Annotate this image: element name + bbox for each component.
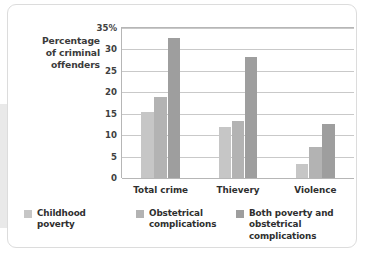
bar xyxy=(296,164,309,178)
y-axis-tick-label: 0 xyxy=(111,173,117,183)
bar xyxy=(309,147,322,178)
legend-swatch-icon xyxy=(136,210,144,218)
legend-label: Childhoodpoverty xyxy=(37,208,86,231)
y-axis-title-line: offenders xyxy=(24,59,100,71)
bar xyxy=(154,97,167,178)
legend-label-line: Childhood xyxy=(37,208,86,219)
x-axis-category-label: Total crime xyxy=(133,185,188,195)
y-axis-title: Percentageof criminaloffenders xyxy=(24,35,100,72)
y-axis-tick-label: 35% xyxy=(96,23,117,33)
axis-baseline xyxy=(122,178,354,179)
y-axis-tick-label: 20 xyxy=(105,87,117,97)
y-axis-tick-label: 10 xyxy=(105,130,117,140)
legend-label-line: complications xyxy=(149,219,216,230)
legend-label-line: Both poverty and xyxy=(249,208,350,219)
plot-area: 05101520253035% Total crimeThieveryViole… xyxy=(121,27,354,178)
bar xyxy=(322,124,335,178)
legend-item[interactable]: Both poverty andobstetrical complication… xyxy=(236,208,350,242)
legend-label-line: obstetrical complications xyxy=(249,219,350,242)
y-axis-tick-label: 30 xyxy=(105,44,117,54)
x-axis-category-label: Violence xyxy=(294,185,336,195)
y-axis-tick-label: 5 xyxy=(111,152,117,162)
bar xyxy=(245,57,258,178)
legend-swatch-icon xyxy=(236,210,244,218)
legend-item[interactable]: Childhoodpoverty xyxy=(24,208,136,231)
legend-label: Obstetricalcomplications xyxy=(149,208,216,231)
y-axis-tick-label: 25 xyxy=(105,66,117,76)
legend-label-line: poverty xyxy=(37,219,86,230)
bar-groups xyxy=(122,28,354,178)
y-axis-tick-label: 15 xyxy=(105,109,117,119)
bar xyxy=(168,38,181,178)
chart-legend: ChildhoodpovertyObstetricalcomplications… xyxy=(24,208,350,242)
chart-card: Percentageof criminaloffenders 051015202… xyxy=(7,4,357,248)
legend-label-line: Obstetrical xyxy=(149,208,216,219)
legend-item[interactable]: Obstetricalcomplications xyxy=(136,208,236,231)
y-axis-title-line: Percentage xyxy=(24,35,100,47)
bar xyxy=(232,121,245,178)
legend-swatch-icon xyxy=(24,210,32,218)
y-axis-title-line: of criminal xyxy=(24,47,100,59)
bar xyxy=(219,127,232,178)
legend-label: Both poverty andobstetrical complication… xyxy=(249,208,350,242)
x-axis-category-label: Thievery xyxy=(216,185,259,195)
bar xyxy=(141,112,154,178)
